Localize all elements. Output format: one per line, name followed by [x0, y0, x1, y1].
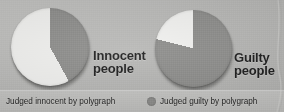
legend-item-innocent[interactable]: Judged innocent by polygraph: [2, 97, 115, 106]
guilty-people-pie[interactable]: [155, 10, 232, 87]
legend-item-guilty[interactable]: Judged guilty by polygraph: [147, 97, 257, 106]
legend-label-innocent: Judged innocent by polygraph: [6, 97, 115, 106]
legend-swatch-guilty-icon: [147, 97, 156, 106]
chart-plot-area: Innocent people Guilty people: [0, 0, 284, 90]
chart-legend: Judged innocent by polygraph Judged guil…: [0, 90, 284, 112]
guilty-people-label: Guilty people: [234, 51, 275, 78]
guilty-people-label-line2: people: [234, 63, 275, 78]
innocent-people-label-line2: people: [93, 61, 134, 76]
innocent-people-pie[interactable]: [11, 8, 89, 86]
innocent-people-label: Innocent people: [93, 49, 146, 76]
legend-label-guilty: Judged guilty by polygraph: [160, 97, 257, 106]
